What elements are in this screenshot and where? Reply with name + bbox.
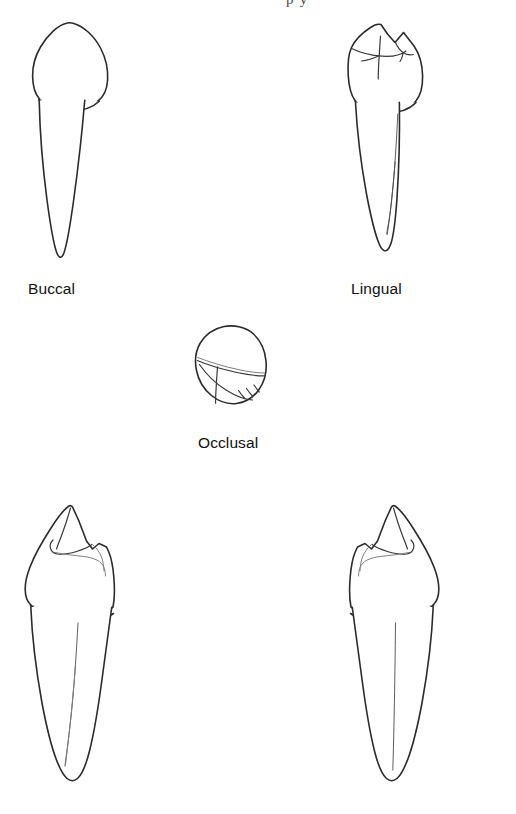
buccal-root-outline [39, 100, 85, 257]
tooth-view-buccal [14, 14, 134, 272]
lingual-root-outline [356, 102, 400, 251]
label-occlusal: Occlusal [198, 435, 258, 451]
label-lingual: Lingual [351, 281, 402, 297]
proximal-left-crown-outline [25, 506, 114, 612]
occlusal-tooth-drawing [186, 318, 286, 418]
proximal-left-root-outline [31, 607, 112, 781]
occlusal-crown-outline [196, 326, 267, 404]
proximal-right-crown-outline [350, 506, 439, 612]
proximal-left-tooth-drawing [6, 495, 146, 795]
buccal-tooth-drawing [14, 14, 134, 272]
tooth-anatomy-figure: p y Buccal [0, 0, 516, 814]
tooth-view-proximal-right [318, 495, 458, 795]
proximal-right-tooth-drawing [318, 495, 458, 795]
lingual-tooth-drawing [329, 14, 449, 272]
buccal-crown-outline [33, 23, 108, 109]
lingual-crown-outline [348, 24, 423, 111]
proximal-right-root-outline [352, 607, 433, 781]
tooth-view-occlusal [186, 318, 286, 418]
tooth-view-proximal-left [6, 495, 146, 795]
cropped-header-text: p y [286, 0, 308, 8]
label-buccal: Buccal [28, 281, 75, 297]
tooth-view-lingual [329, 14, 449, 272]
